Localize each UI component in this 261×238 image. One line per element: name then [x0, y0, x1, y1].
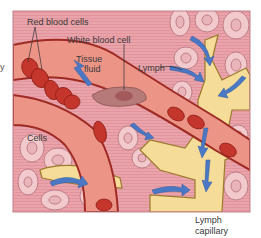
label-white-blood-cell: White blood cell — [67, 35, 131, 45]
label-tissue-fluid-line2: fluid — [84, 64, 101, 74]
label-red-blood-cells: Red blood cells — [27, 17, 89, 27]
label-lymph-capillary-line2: capillary — [195, 226, 228, 236]
edge-fragment-text: y — [0, 62, 5, 72]
label-lymph-capillary-line1: Lymph — [195, 215, 222, 225]
label-cells: Cells — [27, 133, 47, 143]
label-tissue-fluid-line1: Tissue — [76, 54, 102, 64]
label-lymph: Lymph — [138, 63, 165, 73]
white-blood-cell-nucleus — [115, 91, 133, 101]
